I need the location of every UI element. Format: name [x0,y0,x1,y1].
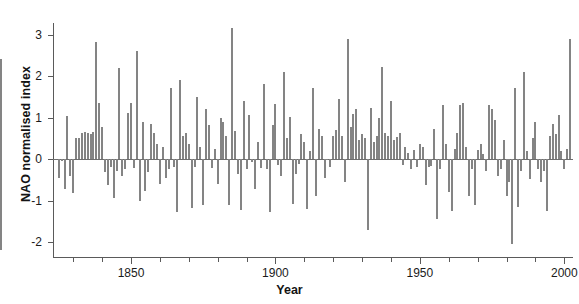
bar [64,159,66,189]
bar [419,144,421,159]
bar [390,101,392,159]
bar [367,159,369,230]
bar [500,159,502,169]
bar [451,159,453,211]
x-axis-title: Year [0,283,579,297]
bar [563,159,565,169]
bar [329,159,331,167]
bar [508,159,510,182]
bar [381,67,383,159]
bar [315,159,317,196]
bar [566,149,568,159]
bar [257,142,259,159]
bar [335,130,337,159]
nao-bar-chart: -2-10123 1850190019502000 NAO normalised… [0,0,579,304]
bar [347,39,349,159]
bar [569,39,571,159]
bar [176,159,178,212]
bar [118,68,120,159]
bar [558,115,560,159]
bar [98,103,100,159]
bar [92,132,94,159]
bar [87,133,89,159]
bar [251,159,253,162]
bar [289,117,291,159]
bar [266,159,268,169]
bar [248,115,250,159]
bar [185,133,187,159]
bar [58,159,60,178]
bar [246,159,248,169]
bar [61,159,63,161]
bar [136,51,138,159]
bar [124,159,126,169]
bar [471,159,473,169]
bar [306,159,308,209]
bar [532,138,534,159]
bar [121,159,123,176]
bar [66,116,68,159]
bar [514,88,516,159]
bar [546,159,548,211]
bar [95,42,97,159]
bar [153,133,155,159]
bar [75,138,77,159]
bar [358,140,360,159]
bar [436,159,438,219]
bar [465,147,467,159]
bar [361,134,363,159]
bar [474,159,476,205]
bar [416,159,418,167]
bar [243,101,245,159]
bar [0,122,2,159]
bar [208,125,210,159]
bar [260,159,262,168]
bar [78,138,80,159]
bar [274,104,276,159]
bar [240,159,242,210]
bar [543,159,545,171]
bar [222,122,224,159]
bar [523,72,525,159]
bar [482,154,484,159]
bar [526,151,528,159]
bar [283,72,285,159]
bar [341,136,343,159]
bar [529,159,531,179]
bar [402,159,404,165]
bar [393,140,395,159]
bar [116,159,118,171]
bar [404,147,406,159]
bar [399,133,401,159]
bar [324,159,326,178]
bar [225,136,227,159]
bar-series [0,0,579,304]
bar [231,28,233,159]
bar [373,142,375,159]
bar [332,136,334,159]
bar [555,134,557,159]
bar [101,127,103,159]
bar [220,118,222,160]
bar [202,159,204,205]
bar [454,149,456,159]
y-axis-title: NAO normalised index [19,34,39,234]
bar [384,133,386,159]
bar [194,159,196,167]
bar [170,88,172,159]
bar [312,88,314,159]
bar [433,129,435,159]
bar [217,159,219,184]
bar [72,159,74,193]
bar [159,159,161,184]
bar [387,136,389,159]
bar [517,159,519,207]
bar [127,113,129,159]
bar [142,122,144,159]
bar [413,150,415,159]
bar [191,159,193,208]
bar [130,103,132,159]
bar [107,159,109,185]
bar [534,122,536,159]
bar [462,103,464,159]
